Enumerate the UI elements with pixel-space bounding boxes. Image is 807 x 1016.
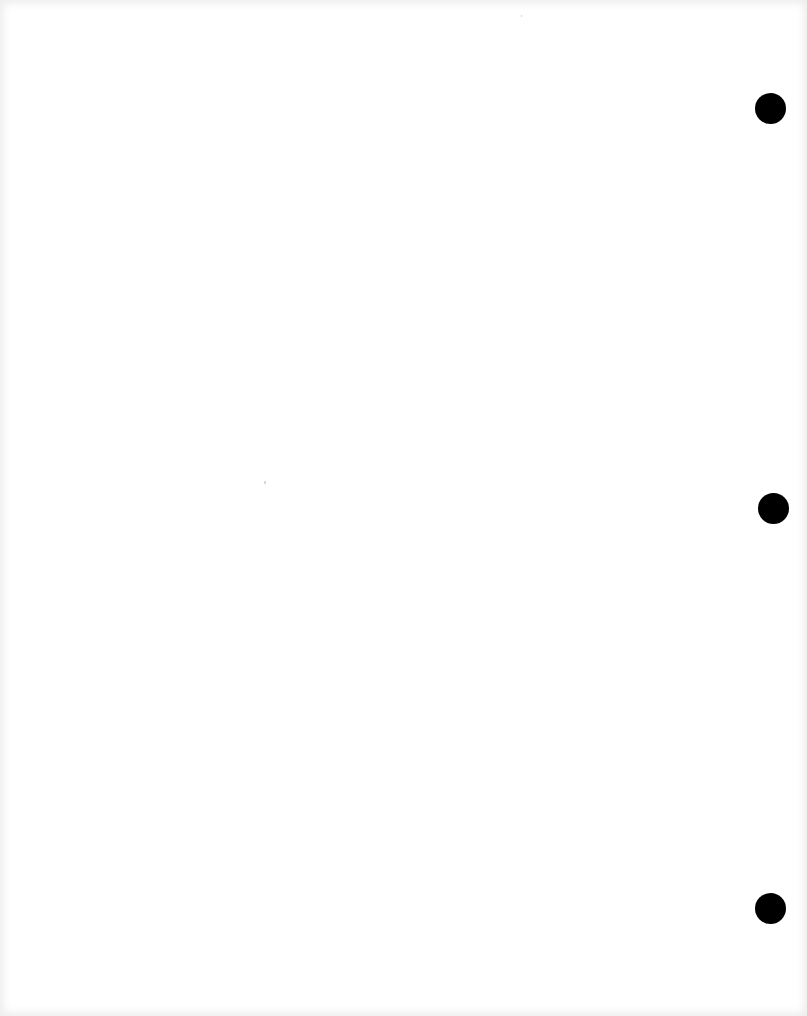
punch-hole-top <box>755 93 786 124</box>
punch-hole-middle <box>758 493 789 524</box>
blank-page <box>0 0 807 1016</box>
punch-hole-bottom <box>755 893 786 924</box>
scan-speck <box>264 481 266 484</box>
scan-speck <box>521 15 522 17</box>
